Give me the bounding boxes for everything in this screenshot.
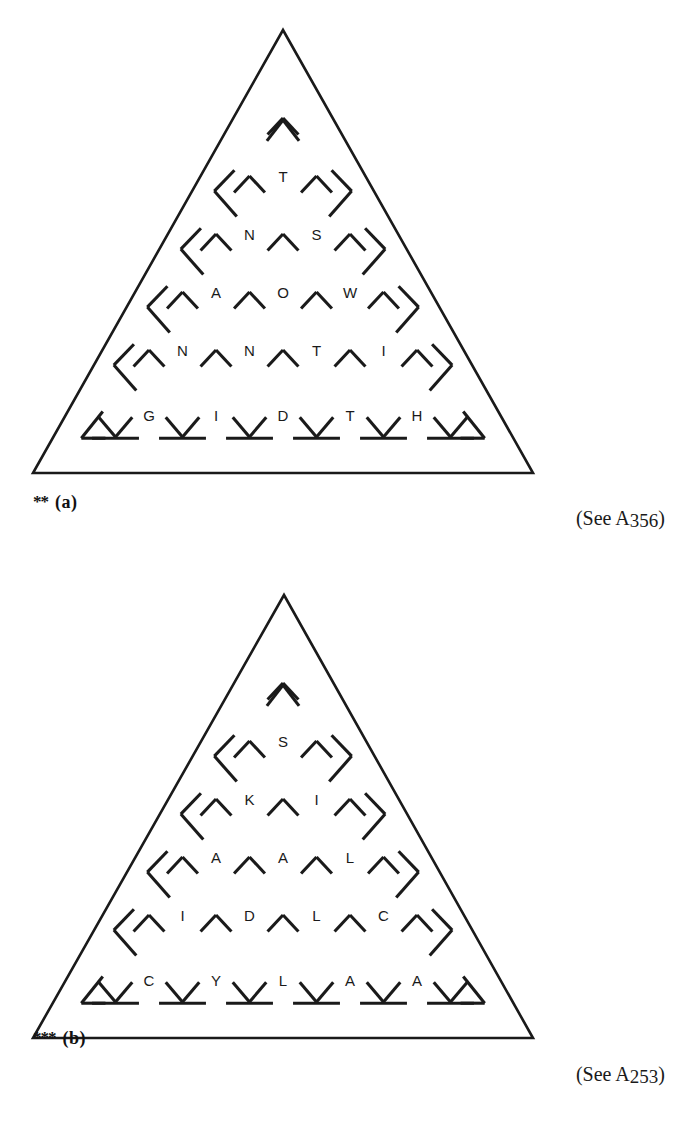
lattice-letter: A <box>345 972 355 989</box>
lattice-letter: I <box>214 407 218 424</box>
lattice-letter: N <box>244 342 255 359</box>
lattice-letter: W <box>343 284 358 301</box>
reference-number-a: 356 <box>630 510 659 531</box>
figure-a-label: (a) <box>55 492 78 512</box>
lattice-letter: I <box>314 791 318 808</box>
puzzle-figure-a: TNSAOWNNTIGIDTH **(a) (See A356) <box>0 0 673 565</box>
lattice-letter: O <box>277 284 289 301</box>
figure-b-caption-left: ***(b) <box>33 1028 86 1049</box>
figure-a-caption-left: **(a) <box>33 492 78 513</box>
lattice-letter: N <box>177 342 188 359</box>
lattice-letter: H <box>412 407 423 424</box>
difficulty-stars-a: ** <box>33 492 48 511</box>
lattice-letter: K <box>244 791 254 808</box>
lattice-letter: L <box>346 849 354 866</box>
reference-prefix-b: (See A <box>576 1063 630 1085</box>
lattice-letter: A <box>278 849 288 866</box>
figure-a-reference: (See A356) <box>576 507 665 530</box>
lattice-letter: I <box>381 342 385 359</box>
lattice-letter: A <box>211 849 221 866</box>
lattice-letter: A <box>211 284 221 301</box>
reference-suffix-a: ) <box>658 507 665 529</box>
reference-prefix-a: (See A <box>576 507 630 529</box>
difficulty-stars-b: *** <box>33 1028 56 1047</box>
triangle-puzzle-diagram-b: SKIAALIDLCCYLAA <box>0 565 673 1130</box>
lattice-letter: S <box>311 226 321 243</box>
lattice-letter: N <box>244 226 255 243</box>
lattice-letter: T <box>278 168 287 185</box>
lattice-letter: D <box>278 407 289 424</box>
reference-suffix-b: ) <box>658 1063 665 1085</box>
figure-b-reference: (See A253) <box>576 1063 665 1086</box>
lattice-letter: L <box>312 907 320 924</box>
lattice-letter: L <box>279 972 287 989</box>
triangle-puzzle-diagram-a: TNSAOWNNTIGIDTH <box>0 0 673 565</box>
lattice-letter: Y <box>211 972 221 989</box>
lattice-letter: C <box>378 907 389 924</box>
figure-b-label: (b) <box>63 1028 87 1048</box>
reference-number-b: 253 <box>630 1066 659 1087</box>
lattice-letter: S <box>278 733 288 750</box>
lattice-letter: I <box>180 907 184 924</box>
lattice-letter: G <box>143 407 155 424</box>
lattice-letter: C <box>144 972 155 989</box>
lattice-letter: T <box>345 407 354 424</box>
puzzle-figure-b: SKIAALIDLCCYLAA <box>0 565 673 1130</box>
lattice-letter: D <box>244 907 255 924</box>
lattice-letter: A <box>412 972 422 989</box>
lattice-letter: T <box>312 342 321 359</box>
